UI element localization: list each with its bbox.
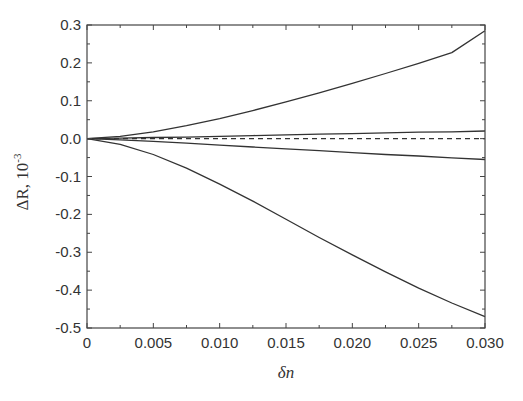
- x-tick-label: 0: [83, 334, 91, 351]
- x-tick-label: 0.005: [135, 334, 173, 351]
- y-tick-label: -0.4: [55, 281, 81, 298]
- x-tick-label: 0.020: [334, 334, 372, 351]
- x-axis-tick-labels: 00.0050.0100.0150.0200.0250.030: [83, 334, 504, 351]
- svg-text:ΔR, 10-3: ΔR, 10-3: [11, 153, 32, 210]
- plot-frame: [87, 25, 485, 328]
- series-small-negative: [87, 139, 485, 160]
- axis-ticks: [87, 25, 485, 328]
- x-tick-label: 0.030: [466, 334, 504, 351]
- y-axis-title-main: ΔR, 10: [13, 163, 32, 211]
- y-tick-label: -0.3: [55, 243, 81, 260]
- y-tick-label: 0.0: [60, 130, 81, 147]
- y-axis-tick-labels: 0.30.20.10.0-0.1-0.2-0.3-0.4-0.5: [55, 16, 81, 336]
- y-axis-title: ΔR, 10-3: [11, 153, 32, 210]
- line-chart: 00.0050.0100.0150.0200.0250.030 0.30.20.…: [0, 0, 523, 401]
- y-tick-label: -0.1: [55, 168, 81, 185]
- series-lower-curve: [87, 139, 485, 317]
- y-tick-label: 0.3: [60, 16, 81, 33]
- series-layer: [87, 31, 485, 317]
- y-tick-label: -0.2: [55, 205, 81, 222]
- y-tick-label: 0.2: [60, 54, 81, 71]
- x-tick-label: 0.010: [201, 334, 239, 351]
- y-tick-label: 0.1: [60, 92, 81, 109]
- x-axis-title: δn: [278, 363, 294, 382]
- y-axis-title-exponent: -3: [11, 153, 23, 163]
- x-tick-label: 0.015: [267, 334, 305, 351]
- x-tick-label: 0.025: [400, 334, 438, 351]
- y-tick-label: -0.5: [55, 319, 81, 336]
- series-upper-curve: [87, 31, 485, 139]
